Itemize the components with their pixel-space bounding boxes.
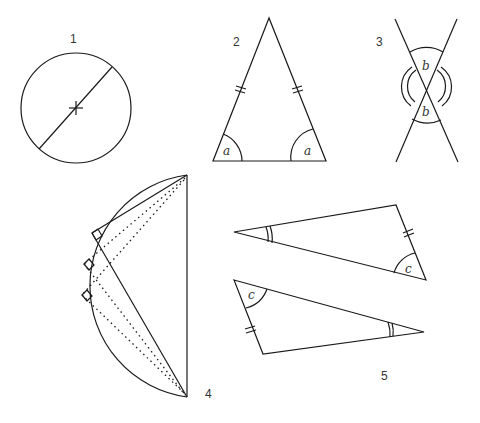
figure-5-congruent-triangles: 5 c c: [234, 205, 426, 383]
angle-arc-icon: [441, 67, 452, 106]
figure-5-label: 5: [381, 369, 388, 383]
figure-1-circle: 1: [21, 32, 131, 163]
angle-label-b: b: [422, 59, 430, 73]
figure-3-intersecting-lines: 3 b b: [376, 19, 458, 162]
angle-arc-double-icon: [270, 226, 272, 243]
chord-line: [92, 233, 187, 397]
figure-3-label: 3: [376, 35, 383, 49]
angle-arc-icon: [407, 70, 416, 102]
triangle: [213, 18, 326, 161]
angle-arc-icon: [410, 47, 443, 52]
figure-4-label: 4: [205, 387, 212, 401]
angle-label-a: a: [304, 144, 311, 158]
angle-arc-icon: [412, 119, 441, 123]
angle-arc-double-icon: [392, 323, 393, 336]
angle-label-a: a: [223, 144, 230, 158]
figure-4-semicircle: 4: [82, 175, 212, 401]
angle-label-b: b: [422, 105, 430, 119]
figure-2-isosceles-triangle: 2 a a: [213, 18, 326, 161]
angle-arc-icon: [437, 70, 446, 102]
angle-arc-double-icon: [388, 322, 390, 337]
angle-label-c: c: [248, 288, 255, 302]
figure-2-label: 2: [233, 35, 240, 49]
dotted-chord: [82, 295, 184, 393]
triangle-upper: [234, 205, 426, 280]
dotted-chord: [84, 178, 185, 264]
line: [396, 19, 457, 162]
angle-label-c: c: [405, 262, 412, 276]
figure-1-label: 1: [70, 32, 77, 46]
equal-side-tick-icon: [403, 229, 413, 233]
semicircle-arc: [90, 175, 187, 397]
chord-line: [92, 175, 187, 233]
geometry-diagram: 1 2 a a 3 b b 4: [0, 0, 480, 423]
angle-arc-icon: [401, 67, 412, 106]
triangle-lower: [234, 280, 424, 354]
